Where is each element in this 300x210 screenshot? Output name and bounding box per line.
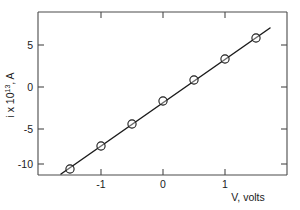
x-axis-ticks <box>101 12 225 175</box>
plot-frame <box>38 12 287 175</box>
svg-text:i x 1013, A: i x 1013, A <box>4 72 16 117</box>
y-axis-tick-labels: 5 0 -5 -10 <box>18 39 33 170</box>
y-tick-label-minus10: -10 <box>18 158 33 170</box>
data-point <box>97 142 105 150</box>
data-point <box>252 34 260 42</box>
y-axis-title-units: , A <box>4 72 16 84</box>
y-axis-title-exponent: 13 <box>4 85 11 93</box>
y-axis-title-base: i x 10 <box>4 92 16 117</box>
data-point <box>159 97 167 105</box>
x-tick-label-minus1: -1 <box>96 178 105 190</box>
x-tick-label-one: 1 <box>222 178 228 190</box>
chart-figure: -1 0 1 5 0 -5 -10 i x 1013, A V, volts <box>0 0 300 210</box>
x-tick-label-zero: 0 <box>160 178 166 190</box>
y-tick-label-minus5: -5 <box>24 123 33 135</box>
data-point <box>128 120 136 128</box>
x-axis-tick-labels: -1 0 1 <box>96 178 228 190</box>
data-point <box>190 76 198 84</box>
data-point <box>66 165 74 173</box>
data-point <box>221 55 229 63</box>
x-axis-title: V, volts <box>231 191 264 203</box>
y-tick-label-5: 5 <box>27 39 33 51</box>
y-tick-label-0: 0 <box>27 81 33 93</box>
y-axis-title: i x 1013, A <box>4 72 16 117</box>
chart-canvas: -1 0 1 5 0 -5 -10 i x 1013, A V, volts <box>0 0 300 210</box>
